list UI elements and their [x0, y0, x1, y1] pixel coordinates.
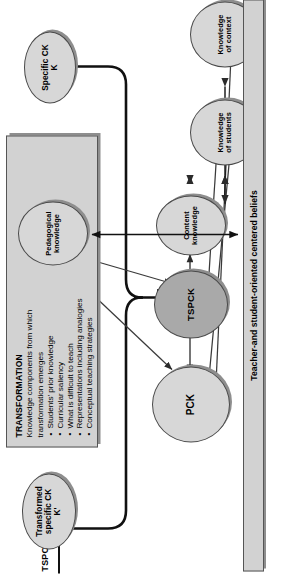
- transformation-bullet: What is difficult to teach: [66, 145, 76, 428]
- node-tspck[interactable]: TSPCK: [154, 270, 228, 338]
- transformation-bullet: Conceptual teaching strategies: [85, 145, 95, 428]
- pedagogical-line2: knowledge: [52, 214, 61, 253]
- specific-ck-line2: K: [50, 44, 59, 90]
- node-pedagogical-knowledge[interactable]: Pedagogical knowledge: [18, 201, 88, 265]
- node-specific-ck[interactable]: Specific CK K: [24, 31, 76, 103]
- beliefs-bar[interactable]: Teacher-and student-oriented centered be…: [243, 0, 264, 571]
- transformed-ck-line1: Transformed: [35, 486, 44, 537]
- transformation-bullet: Representations including analogies: [75, 145, 85, 428]
- transformation-box[interactable]: TRANSFORMATION Knowledge components from…: [6, 135, 98, 447]
- context-line2: of context: [224, 16, 233, 52]
- node-pck[interactable]: PCK: [152, 366, 230, 442]
- content-line2: knowledge: [190, 206, 199, 245]
- arrow-students-to-pck: [209, 132, 232, 377]
- pck-label: PCK: [185, 390, 196, 417]
- transformation-bullet: Curricular saliency: [56, 145, 66, 428]
- node-content-knowledge[interactable]: Content knowledge: [156, 195, 226, 255]
- transformed-ck-line3: K': [53, 486, 62, 537]
- transformation-bullet-list: Students' prior knowledge Curricular sal…: [46, 145, 95, 437]
- students-line2: of students: [224, 112, 233, 153]
- rotated-diagram-stage: TSPCK Transformed specific CK K' Specifi…: [0, 0, 286, 583]
- transformation-bullet: Students' prior knowledge: [46, 145, 56, 428]
- beliefs-label: Teacher-and student-oriented centered be…: [249, 190, 259, 380]
- figure-canvas: TSPCK Transformed specific CK K' Specifi…: [0, 0, 286, 583]
- transformation-title: TRANSFORMATION: [14, 145, 24, 437]
- node-transformed-specific-ck[interactable]: Transformed specific CK K': [22, 473, 76, 549]
- transformation-lead-2: transformation emerges: [36, 145, 46, 437]
- transformation-lead-1: Knowledge components from which: [25, 145, 35, 437]
- tspck-label: TSPCK: [186, 285, 197, 324]
